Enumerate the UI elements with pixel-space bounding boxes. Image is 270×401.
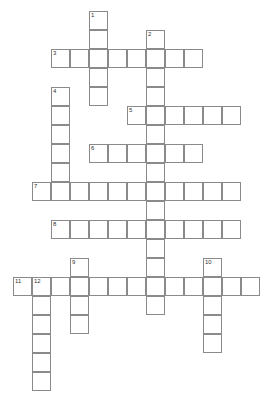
crossword-cell[interactable] bbox=[108, 182, 127, 201]
crossword-cell[interactable] bbox=[165, 49, 184, 68]
crossword-cell[interactable] bbox=[222, 182, 241, 201]
crossword-cell[interactable] bbox=[222, 277, 241, 296]
crossword-cell[interactable] bbox=[203, 296, 222, 315]
crossword-cell[interactable] bbox=[51, 163, 70, 182]
crossword-cell[interactable] bbox=[108, 49, 127, 68]
crossword-cell[interactable] bbox=[184, 220, 203, 239]
crossword-cell[interactable] bbox=[146, 296, 165, 315]
crossword-cell[interactable] bbox=[146, 277, 165, 296]
crossword-cell[interactable] bbox=[146, 201, 165, 220]
crossword-cell[interactable]: 10 bbox=[203, 258, 222, 277]
crossword-cell[interactable] bbox=[203, 277, 222, 296]
clue-number: 4 bbox=[53, 88, 56, 95]
crossword-cell[interactable] bbox=[51, 277, 70, 296]
crossword-cell[interactable]: 8 bbox=[51, 220, 70, 239]
crossword-cell[interactable] bbox=[203, 315, 222, 334]
crossword-cell[interactable] bbox=[127, 220, 146, 239]
crossword-cell[interactable] bbox=[89, 87, 108, 106]
crossword-cell[interactable] bbox=[89, 68, 108, 87]
clue-number: 6 bbox=[91, 145, 94, 152]
crossword-cell[interactable] bbox=[146, 163, 165, 182]
crossword-cell[interactable] bbox=[108, 144, 127, 163]
crossword-cell[interactable] bbox=[146, 220, 165, 239]
crossword-cell[interactable]: 12 bbox=[32, 277, 51, 296]
crossword-cell[interactable] bbox=[51, 144, 70, 163]
crossword-cell[interactable] bbox=[127, 49, 146, 68]
crossword-cell[interactable] bbox=[146, 49, 165, 68]
crossword-cell[interactable] bbox=[89, 182, 108, 201]
crossword-cell[interactable] bbox=[89, 30, 108, 49]
crossword-cell[interactable] bbox=[203, 220, 222, 239]
crossword-cell[interactable] bbox=[184, 144, 203, 163]
crossword-cell[interactable] bbox=[165, 144, 184, 163]
crossword-cell[interactable]: 5 bbox=[127, 106, 146, 125]
clue-number: 11 bbox=[15, 278, 21, 285]
crossword-cell[interactable] bbox=[203, 106, 222, 125]
crossword-cell[interactable] bbox=[165, 182, 184, 201]
clue-number: 5 bbox=[129, 107, 132, 114]
clue-number: 7 bbox=[34, 183, 37, 190]
crossword-cell[interactable]: 4 bbox=[51, 87, 70, 106]
crossword-cell[interactable] bbox=[165, 106, 184, 125]
crossword-cell[interactable] bbox=[70, 220, 89, 239]
clue-number: 1 bbox=[91, 12, 94, 19]
crossword-cell[interactable] bbox=[146, 258, 165, 277]
crossword-cell[interactable] bbox=[184, 182, 203, 201]
crossword-cell[interactable]: 2 bbox=[146, 30, 165, 49]
crossword-cell[interactable] bbox=[32, 315, 51, 334]
crossword-cell[interactable] bbox=[51, 182, 70, 201]
crossword-cell[interactable]: 11 bbox=[13, 277, 32, 296]
crossword-cell[interactable] bbox=[165, 220, 184, 239]
clue-number: 8 bbox=[53, 221, 56, 228]
crossword-cell[interactable] bbox=[222, 106, 241, 125]
crossword-cell[interactable] bbox=[89, 49, 108, 68]
crossword-cell[interactable] bbox=[70, 277, 89, 296]
clue-number: 10 bbox=[205, 259, 212, 266]
crossword-cell[interactable] bbox=[127, 182, 146, 201]
crossword-cell[interactable] bbox=[222, 220, 241, 239]
crossword-cell[interactable] bbox=[32, 296, 51, 315]
crossword-cell[interactable] bbox=[184, 49, 203, 68]
crossword-cell[interactable] bbox=[203, 334, 222, 353]
crossword-cell[interactable] bbox=[70, 296, 89, 315]
crossword-cell[interactable] bbox=[70, 49, 89, 68]
crossword-cell[interactable] bbox=[51, 106, 70, 125]
crossword-cell[interactable] bbox=[241, 277, 260, 296]
crossword-cell[interactable] bbox=[32, 353, 51, 372]
crossword-cell[interactable] bbox=[89, 220, 108, 239]
crossword-cell[interactable] bbox=[203, 182, 222, 201]
crossword-cell[interactable] bbox=[70, 315, 89, 334]
crossword-cell[interactable] bbox=[146, 87, 165, 106]
crossword-cell[interactable] bbox=[146, 182, 165, 201]
crossword-cell[interactable] bbox=[146, 125, 165, 144]
crossword-cell[interactable]: 7 bbox=[32, 182, 51, 201]
crossword-cell[interactable] bbox=[165, 277, 184, 296]
crossword-cell[interactable] bbox=[146, 68, 165, 87]
crossword-cell[interactable] bbox=[51, 125, 70, 144]
crossword-cell[interactable] bbox=[127, 277, 146, 296]
crossword-cell[interactable] bbox=[146, 106, 165, 125]
clue-number: 3 bbox=[53, 50, 56, 57]
crossword-cell[interactable] bbox=[108, 277, 127, 296]
crossword-cell[interactable] bbox=[146, 239, 165, 258]
crossword-cell[interactable]: 6 bbox=[89, 144, 108, 163]
crossword-grid: 123456789101112 bbox=[0, 0, 270, 401]
crossword-cell[interactable] bbox=[70, 182, 89, 201]
clue-number: 9 bbox=[72, 259, 75, 266]
crossword-cell[interactable] bbox=[32, 372, 51, 391]
crossword-cell[interactable] bbox=[146, 144, 165, 163]
crossword-cell[interactable]: 1 bbox=[89, 11, 108, 30]
crossword-cell[interactable] bbox=[32, 334, 51, 353]
crossword-cell[interactable] bbox=[184, 106, 203, 125]
crossword-cell[interactable] bbox=[184, 277, 203, 296]
clue-number: 2 bbox=[148, 31, 151, 38]
clue-number: 12 bbox=[34, 278, 41, 285]
crossword-cell[interactable]: 3 bbox=[51, 49, 70, 68]
crossword-cell[interactable] bbox=[89, 277, 108, 296]
crossword-cell[interactable] bbox=[108, 220, 127, 239]
crossword-cell[interactable]: 9 bbox=[70, 258, 89, 277]
crossword-cell[interactable] bbox=[127, 144, 146, 163]
